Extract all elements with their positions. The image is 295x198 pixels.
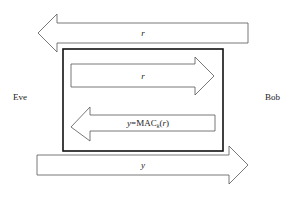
party-bob: Bob: [265, 92, 280, 102]
outer-bottom-arrow-label: y: [140, 160, 145, 170]
close-paren: ): [166, 118, 169, 128]
inner-top-arrow: r: [71, 57, 214, 95]
mac-function: MAC: [136, 118, 157, 128]
inner-top-arrow-label: r: [141, 71, 145, 81]
party-eve: Eve: [13, 92, 27, 102]
outer-top-arrow-label: r: [141, 28, 145, 38]
inner-bottom-arrow: y=MACk(r): [71, 107, 215, 141]
mac-diagram: r r y=MACk(r) y: [0, 0, 295, 198]
outer-top-arrow: r: [38, 14, 248, 52]
inner-bottom-arrow-label: y=MACk(r): [126, 118, 169, 129]
